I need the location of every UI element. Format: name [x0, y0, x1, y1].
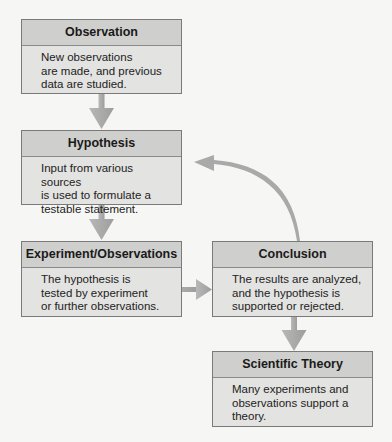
- node-conclusion: Conclusion The results are analyzed, and…: [212, 241, 373, 317]
- node-title: Scientific Theory: [213, 352, 372, 378]
- arrow-conclusion-to-hypothesis: [194, 155, 300, 241]
- node-hypothesis: Hypothesis Input from various sources is…: [21, 130, 182, 205]
- node-text: Input from various sources is used to fo…: [22, 157, 181, 222]
- node-title: Conclusion: [213, 242, 372, 268]
- node-experiment: Experiment/Observations The hypothesis i…: [21, 241, 182, 317]
- node-text: The results are analyzed, and the hypoth…: [213, 268, 372, 320]
- node-title: Hypothesis: [22, 131, 181, 157]
- node-text: Many experiments and observations suppor…: [213, 378, 372, 430]
- node-text: New observations are made, and previous …: [22, 46, 181, 98]
- node-title: Experiment/Observations: [22, 242, 181, 268]
- node-theory: Scientific Theory Many experiments and o…: [212, 351, 373, 427]
- node-observation: Observation New observations are made, a…: [21, 19, 182, 94]
- node-title: Observation: [22, 20, 181, 46]
- node-text: The hypothesis is tested by experiment o…: [22, 268, 181, 320]
